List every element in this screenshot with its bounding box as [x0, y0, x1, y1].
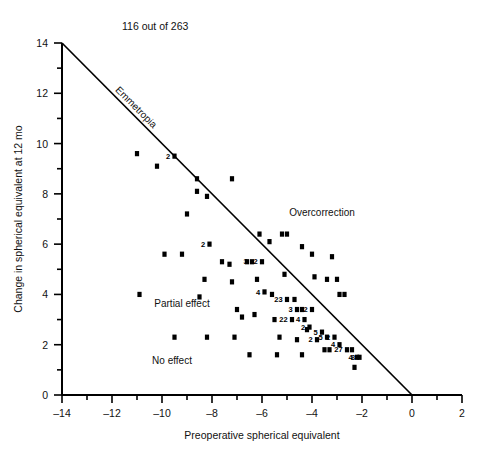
- point-count-label: 2: [326, 333, 330, 342]
- data-point: [307, 325, 311, 330]
- data-point: [260, 259, 264, 264]
- data-point: [300, 244, 304, 249]
- y-tick-label: 8: [42, 188, 48, 200]
- y-axis-title: Change in spherical equivalent at 12 mo: [12, 125, 24, 313]
- point-count-label: 2: [308, 335, 312, 344]
- data-point: [252, 312, 256, 317]
- data-point: [295, 337, 299, 342]
- point-count-label: 2: [303, 305, 307, 314]
- emmetropia-label: Emmetropia: [113, 84, 159, 130]
- y-tick-label: 0: [42, 389, 48, 401]
- region-annotations: OvercorrectionPartial effectNo effect: [152, 207, 355, 365]
- data-point: [352, 365, 356, 370]
- data-point: [345, 347, 349, 352]
- point-count-label: 23: [274, 295, 282, 304]
- x-tick-label: –12: [103, 407, 121, 419]
- data-point: [207, 242, 211, 247]
- y-tick-label: 12: [36, 87, 48, 99]
- data-point: [255, 277, 259, 282]
- data-point: [262, 289, 266, 294]
- data-point: [280, 231, 284, 236]
- scatter-plot: –14–12–10–8–6–4–20202468101214 Emmetropi…: [0, 0, 484, 450]
- data-point: [310, 307, 314, 312]
- data-point: [257, 231, 261, 236]
- y-tick-label: 6: [42, 238, 48, 250]
- data-point: [162, 252, 166, 257]
- x-tick-label: 2: [459, 407, 465, 419]
- point-count-label: 3: [243, 257, 247, 266]
- data-point: [135, 151, 139, 156]
- y-tick-label: 14: [36, 37, 48, 49]
- data-point: [285, 231, 289, 236]
- data-point: [235, 307, 239, 312]
- point-count-label: 5: [318, 333, 322, 342]
- data-point: [290, 317, 294, 322]
- data-point: [312, 274, 316, 279]
- data-point: [272, 317, 276, 322]
- point-count-label: 2: [301, 323, 305, 332]
- data-point: [185, 211, 189, 216]
- y-tick-label: 4: [42, 288, 48, 300]
- data-point: [240, 314, 244, 319]
- point-count-label: 3: [288, 305, 292, 314]
- data-point: [282, 272, 286, 277]
- data-point: [295, 307, 299, 312]
- data-point: [172, 154, 176, 159]
- point-count-label: 22: [279, 315, 287, 324]
- x-tick-label: –2: [356, 407, 368, 419]
- data-point: [205, 335, 209, 340]
- data-point: [195, 189, 199, 194]
- region-label: Partial effect: [154, 298, 210, 309]
- point-count-label: 2: [253, 257, 257, 266]
- x-tick-label: –4: [306, 407, 318, 419]
- x-tick-label: –8: [206, 407, 218, 419]
- region-label: Overcorrection: [289, 207, 355, 218]
- x-tick-label: –6: [256, 407, 268, 419]
- data-point: [155, 164, 159, 169]
- data-point: [325, 277, 329, 282]
- point-count-label: 4: [256, 288, 261, 297]
- region-label: No effect: [152, 355, 192, 366]
- point-count-label: 2: [201, 240, 205, 249]
- data-point: [337, 292, 341, 297]
- data-point: [172, 335, 176, 340]
- point-count-label: 27: [334, 345, 342, 354]
- data-point: [292, 297, 296, 302]
- data-point: [277, 335, 281, 340]
- x-tick-label: –10: [153, 407, 171, 419]
- data-point: [350, 347, 354, 352]
- y-tick-label: 2: [42, 339, 48, 351]
- point-count-label: 8: [351, 353, 355, 362]
- data-point: [357, 355, 361, 360]
- x-axis-title: Preoperative spherical equivalent: [184, 429, 339, 441]
- axes: –14–12–10–8–6–4–20202468101214: [36, 37, 465, 419]
- data-point: [137, 292, 141, 297]
- data-point: [302, 317, 306, 322]
- data-point: [300, 352, 304, 357]
- data-point: [230, 176, 234, 181]
- emmetropia-reference-line: Emmetropia: [62, 43, 412, 395]
- data-point: [227, 262, 231, 267]
- data-point: [332, 335, 336, 340]
- point-count-labels: 2232423322422552242748: [166, 152, 355, 362]
- data-point: [180, 252, 184, 257]
- data-point: [232, 335, 236, 340]
- data-point: [310, 252, 314, 257]
- point-count-label: 5: [313, 328, 317, 337]
- data-point: [202, 277, 206, 282]
- data-point: [205, 194, 209, 199]
- data-point: [195, 176, 199, 181]
- point-count-label: 2: [166, 152, 170, 161]
- data-point: [267, 239, 271, 244]
- figure-container: –14–12–10–8–6–4–20202468101214 Emmetropi…: [0, 0, 484, 450]
- data-point: [342, 292, 346, 297]
- emmetropia-line: [62, 43, 412, 395]
- data-point: [285, 297, 289, 302]
- data-point: [247, 352, 251, 357]
- y-tick-label: 10: [36, 138, 48, 150]
- x-tick-label: –14: [53, 407, 71, 419]
- data-point: [230, 279, 234, 284]
- data-point: [220, 259, 224, 264]
- data-point: [335, 277, 339, 282]
- chart-count-header: 116 out of 263: [122, 20, 189, 32]
